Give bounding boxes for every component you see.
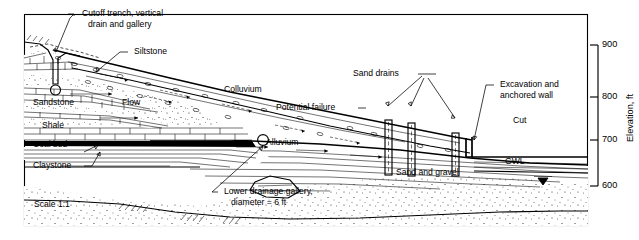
- callout-cutoff-trench-line1: Cutoff trench, vertical: [82, 8, 163, 18]
- callout-sand-drains: Sand drains: [353, 68, 399, 78]
- callout-siltstone: Siltstone: [134, 46, 167, 56]
- elevation-tick-label-700: 700: [602, 134, 617, 144]
- label-coal-bed: Coal bed: [33, 139, 68, 149]
- label-sandstone: Sandstone: [33, 97, 74, 107]
- label-potential-failure: Potential failure: [276, 102, 335, 112]
- label-flow: Flow: [122, 97, 141, 107]
- elevation-tick-label-800: 800: [602, 91, 617, 101]
- elevation-tick-label-900: 900: [602, 39, 617, 49]
- elevation-tick-label-600: 600: [602, 180, 617, 190]
- elevation-axis-title: Elevation, ft: [625, 94, 635, 142]
- label-sand-and-gravel: Sand and gravel: [396, 167, 459, 177]
- label-claystone: Claystone: [33, 160, 71, 170]
- label-scale: Scale 1:1: [34, 199, 70, 209]
- label-gwl: GWL: [505, 156, 525, 166]
- figure-root: Cutoff trench, vertical drain and galler…: [0, 0, 639, 240]
- elevation-axis: 900 800 700 600 Elevation, ft: [590, 39, 635, 190]
- label-cut: Cut: [513, 115, 527, 125]
- callout-excavation-line2: anchored wall: [500, 90, 553, 100]
- callout-cutoff-trench-line2: drain and gallery: [88, 19, 152, 29]
- label-colluvium: Colluvium: [224, 84, 262, 94]
- geological-cross-section-diagram: Cutoff trench, vertical drain and galler…: [0, 0, 639, 240]
- callout-excavation-line1: Excavation and: [500, 79, 559, 89]
- callout-lower-gallery-line2: diameter = 6 ft: [231, 197, 287, 207]
- label-alluvium: Alluvium: [266, 137, 298, 147]
- callout-lower-gallery-line1: Lower drainage gallery,: [224, 186, 313, 196]
- label-shale: Shale: [42, 120, 64, 130]
